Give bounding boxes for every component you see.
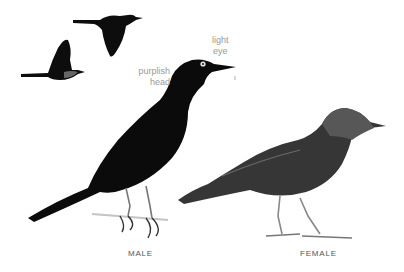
flying-bird-upper (73, 15, 143, 57)
eye-annotation-line2: eye (212, 46, 229, 57)
head-annotation-line1: purplish (138, 66, 170, 77)
head-annotation-line2: head (138, 77, 170, 88)
female-caption: FEMALE (300, 249, 337, 258)
eye-annotation: light eye (212, 35, 229, 57)
female-bird (178, 108, 386, 238)
head-annotation: purplish head (138, 66, 170, 88)
bird-artwork (0, 0, 404, 272)
field-guide-illustration: light eye purplish head MALE FEMALE (0, 0, 404, 272)
male-bird (28, 60, 236, 239)
flying-bird-lower (21, 40, 85, 80)
male-caption: MALE (128, 249, 153, 258)
eye-annotation-line1: light (212, 35, 229, 46)
